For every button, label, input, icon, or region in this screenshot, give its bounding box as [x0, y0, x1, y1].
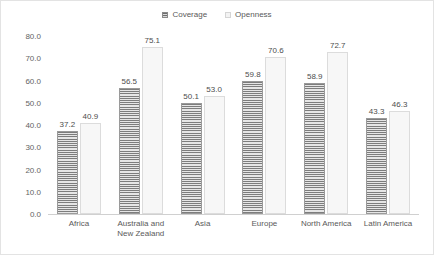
x-axis-baseline: [48, 214, 419, 215]
y-axis-tick-label: 60.0: [25, 76, 41, 85]
y-axis-tick-label: 0.0: [30, 210, 41, 219]
bar-coverage[interactable]: 43.3: [366, 118, 387, 214]
bar-value-label: 58.9: [307, 72, 323, 81]
bar-coverage[interactable]: 37.2: [57, 131, 78, 214]
y-axis-tick-label: 80.0: [25, 32, 41, 41]
bar-openness[interactable]: 40.9: [80, 123, 101, 214]
y-axis-tick-label: 40.0: [25, 121, 41, 130]
bar-pair: 58.972.7: [295, 36, 357, 214]
bar-groups: 37.240.956.575.150.153.059.870.658.972.7…: [48, 1, 419, 214]
y-axis-tick-label: 20.0: [25, 165, 41, 174]
bar-value-label: 37.2: [60, 120, 76, 129]
bar-openness[interactable]: 72.7: [327, 52, 348, 214]
bar-openness[interactable]: 46.3: [389, 111, 410, 214]
bar-value-label: 72.7: [330, 41, 346, 50]
x-axis-category-label: Latin America: [357, 219, 419, 239]
bar-openness[interactable]: 75.1: [142, 47, 163, 214]
bar-group: 50.153.0: [172, 1, 234, 214]
bar-group: 37.240.9: [48, 1, 110, 214]
bar-pair: 37.240.9: [48, 36, 110, 214]
x-axis-labels: AfricaAustralia andNew ZealandAsiaEurope…: [48, 219, 419, 239]
y-axis-tick-label: 50.0: [25, 98, 41, 107]
bar-value-label: 50.1: [183, 92, 199, 101]
bar-value-label: 56.5: [121, 77, 137, 86]
x-axis-category-label: Asia: [172, 219, 234, 239]
bar-coverage[interactable]: 58.9: [304, 83, 325, 214]
y-axis-tick-label: 10.0: [25, 187, 41, 196]
x-axis-category-label: North America: [295, 219, 357, 239]
chart-figure: Coverage Openness 80.070.060.050.040.030…: [0, 0, 434, 255]
bar-pair: 56.575.1: [110, 36, 172, 214]
bar-coverage[interactable]: 50.1: [181, 103, 202, 214]
x-axis-category-label: Africa: [48, 219, 110, 239]
x-axis-category-label: Australia andNew Zealand: [110, 219, 172, 239]
bar-openness[interactable]: 53.0: [204, 96, 225, 214]
bar-group: 59.870.6: [233, 1, 295, 214]
bar-value-label: 59.8: [245, 70, 261, 79]
y-axis-tick-label: 30.0: [25, 143, 41, 152]
bar-openness[interactable]: 70.6: [265, 57, 286, 214]
x-axis-category-label: Europe: [233, 219, 295, 239]
y-axis: 80.070.060.050.040.030.020.010.00.0: [1, 1, 45, 255]
bar-value-label: 75.1: [144, 36, 160, 45]
bar-value-label: 53.0: [206, 85, 222, 94]
bar-value-label: 46.3: [392, 100, 408, 109]
bar-group: 58.972.7: [295, 1, 357, 214]
bar-coverage[interactable]: 56.5: [119, 88, 140, 214]
bar-value-label: 70.6: [268, 46, 284, 55]
bar-coverage[interactable]: 59.8: [242, 81, 263, 214]
bar-value-label: 43.3: [369, 107, 385, 116]
bar-value-label: 40.9: [83, 112, 99, 121]
y-axis-tick-label: 70.0: [25, 54, 41, 63]
bar-pair: 43.346.3: [357, 36, 419, 214]
bar-pair: 50.153.0: [172, 36, 234, 214]
bar-group: 43.346.3: [357, 1, 419, 214]
bar-pair: 59.870.6: [233, 36, 295, 214]
bar-group: 56.575.1: [110, 1, 172, 214]
